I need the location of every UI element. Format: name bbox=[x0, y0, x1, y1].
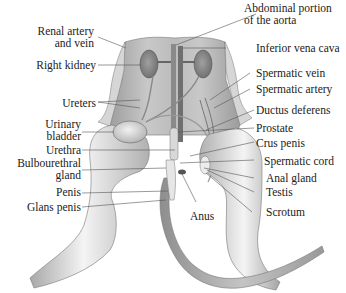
label-inferior-vena-cava: Inferior vena cava bbox=[256, 42, 340, 54]
label-line: Renal artery bbox=[37, 25, 94, 37]
label-line: Abdominal portion bbox=[244, 2, 332, 14]
label-abdominal-aorta: Abdominal portion of the aorta bbox=[244, 2, 332, 26]
label-anal-gland: Anal gland bbox=[266, 172, 317, 184]
label-line: Ureters bbox=[62, 97, 96, 109]
label-line: Anal gland bbox=[266, 172, 317, 184]
label-prostate: Prostate bbox=[256, 122, 293, 134]
label-renal-artery-vein: Renal artery and vein bbox=[37, 25, 94, 49]
label-line: Ductus deferens bbox=[256, 104, 330, 116]
label-line: Right kidney bbox=[36, 59, 96, 71]
anus-shape bbox=[178, 170, 186, 175]
label-bulbourethral-gland: Bulbourethral gland bbox=[17, 157, 81, 181]
label-line: Spermatic artery bbox=[256, 83, 332, 95]
aorta-shape bbox=[171, 44, 176, 142]
label-line: of the aorta bbox=[244, 14, 332, 26]
label-spermatic-artery: Spermatic artery bbox=[256, 83, 332, 95]
label-line: Urethra bbox=[46, 144, 81, 156]
label-urethra: Urethra bbox=[46, 144, 81, 156]
label-line: and vein bbox=[37, 37, 94, 49]
label-line: Urinary bbox=[45, 118, 81, 130]
label-line: Crus penis bbox=[256, 137, 305, 149]
urethra-shape bbox=[170, 128, 178, 160]
label-line: Anus bbox=[190, 210, 214, 222]
urinary-bladder-shape bbox=[113, 121, 147, 143]
right-kidney-shape bbox=[140, 50, 158, 78]
label-spermatic-cord: Spermatic cord bbox=[264, 155, 334, 167]
label-right-kidney: Right kidney bbox=[36, 59, 96, 71]
vena-cava-shape bbox=[178, 46, 183, 142]
label-scrotum: Scrotum bbox=[266, 206, 305, 218]
label-anus: Anus bbox=[190, 210, 214, 222]
testis-shape bbox=[200, 156, 210, 174]
label-line: Bulbourethral bbox=[17, 157, 81, 169]
label-line: bladder bbox=[45, 130, 81, 142]
label-line: Scrotum bbox=[266, 206, 305, 218]
label-line: gland bbox=[17, 169, 81, 181]
label-crus-penis: Crus penis bbox=[256, 137, 305, 149]
label-line: Glans penis bbox=[27, 201, 81, 213]
anatomy-figure: Renal artery and vein Right kidney Urete… bbox=[0, 0, 346, 293]
label-urinary-bladder: Urinary bladder bbox=[45, 118, 81, 142]
left-kidney-shape bbox=[194, 50, 212, 78]
label-penis: Penis bbox=[56, 186, 81, 198]
label-line: Inferior vena cava bbox=[256, 42, 340, 54]
label-line: Spermatic cord bbox=[264, 155, 334, 167]
label-glans-penis: Glans penis bbox=[27, 201, 81, 213]
label-line: Spermatic vein bbox=[256, 67, 325, 79]
label-line: Testis bbox=[266, 186, 293, 198]
label-ureters: Ureters bbox=[62, 97, 96, 109]
label-line: Prostate bbox=[256, 122, 293, 134]
label-spermatic-vein: Spermatic vein bbox=[256, 67, 325, 79]
label-ductus-deferens: Ductus deferens bbox=[256, 104, 330, 116]
label-line: Penis bbox=[56, 186, 81, 198]
label-testis: Testis bbox=[266, 186, 293, 198]
